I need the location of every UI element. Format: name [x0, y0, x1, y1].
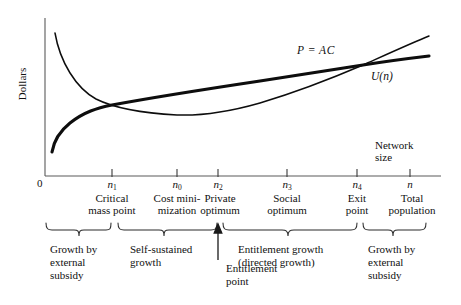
tick-label-n4: n4 — [352, 178, 361, 190]
category-line1: Social — [267, 192, 307, 204]
region-growth-by-external-subsidy-left: Growth by external subsidy — [50, 243, 97, 282]
x-axis-title-line1: Network — [375, 139, 414, 151]
tick-label-n1: n1 — [107, 178, 116, 190]
category-line2: mization — [154, 204, 201, 216]
tick-label-n0: n0 — [172, 178, 181, 190]
annotation-line2: point — [226, 275, 277, 288]
entitlement-point-arrow — [214, 224, 222, 260]
region-line2: external — [368, 256, 415, 269]
region-line2: external — [50, 256, 97, 269]
region-line1: Entitlement growth — [238, 243, 323, 256]
category-line2: point — [346, 204, 369, 216]
curve-label-p-equals-ac: P = AC — [297, 44, 335, 56]
region-braces — [46, 223, 426, 236]
tick-label-n3: n3 — [282, 178, 291, 190]
x-axis-title: Network size — [375, 139, 414, 164]
category-line2: mass point — [88, 204, 135, 216]
curve-label-u-of-n: U(n) — [371, 70, 393, 82]
category-cost-minimization: Cost mini- mization — [154, 192, 201, 217]
annotation-entitlement-point: Entitlement point — [226, 262, 277, 287]
region-line3: subsidy — [50, 269, 97, 282]
annotation-line1: Entitlement — [226, 262, 277, 275]
category-social-optimum: Social optimum — [267, 192, 307, 217]
region-line1: Growth by — [50, 243, 97, 256]
category-line1: Exit — [346, 192, 369, 204]
tick-label-n2: n2 — [213, 178, 222, 190]
region-line1: Self-sustained — [130, 243, 192, 256]
figure-network-economics: Dollars 0 P = AC U(n) Network size n1 n0… — [0, 0, 461, 305]
tick-label-n: n — [407, 178, 413, 190]
y-axis-title: Dollars — [17, 54, 29, 114]
region-self-sustained-growth: Self-sustained growth — [130, 243, 192, 269]
origin-label: 0 — [37, 178, 43, 190]
region-line3: subsidy — [368, 269, 415, 282]
category-critical-mass-point: Critical mass point — [88, 192, 135, 217]
category-exit-point: Exit point — [346, 192, 369, 217]
region-line1: Growth by — [368, 243, 415, 256]
category-total-population: Total population — [388, 192, 435, 217]
category-line2: population — [388, 204, 435, 216]
category-private-optimum: Private optimum — [200, 192, 240, 217]
region-line2: growth — [130, 256, 192, 269]
region-growth-by-external-subsidy-right: Growth by external subsidy — [368, 243, 415, 282]
x-axis-title-line2: size — [375, 151, 414, 163]
category-line1: Cost mini- — [154, 192, 201, 204]
category-line1: Critical — [88, 192, 135, 204]
category-line2: optimum — [200, 204, 240, 216]
category-line2: optimum — [267, 204, 307, 216]
category-line1: Private — [200, 192, 240, 204]
category-line1: Total — [388, 192, 435, 204]
